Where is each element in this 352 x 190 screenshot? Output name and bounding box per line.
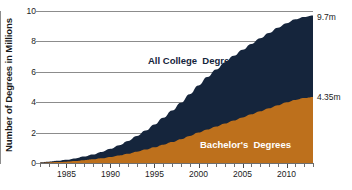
- x-axis-tick-mark-minor: [102, 164, 103, 167]
- x-axis-tick-label: 2000: [189, 169, 208, 179]
- endpoint-label-bachelors-degrees: 4.35m: [317, 92, 341, 102]
- y-axis-title: Number of Degrees in Millions: [0, 0, 16, 170]
- x-axis-tick-mark-minor: [225, 164, 226, 167]
- x-axis-tick-mark-minor: [49, 164, 50, 167]
- x-axis-tick-mark-minor: [295, 164, 296, 167]
- x-axis-tick-mark-minor: [190, 164, 191, 167]
- x-axis-tick-mark-minor: [172, 164, 173, 167]
- y-axis-tick-label: 2: [22, 128, 36, 138]
- x-axis-tick-mark-minor: [119, 164, 120, 167]
- x-axis-tick-mark-minor: [181, 164, 182, 167]
- x-axis-tick-mark-major: [199, 164, 200, 168]
- x-axis-tick-mark-major: [154, 164, 155, 168]
- x-axis-tick-label: 2010: [277, 169, 296, 179]
- x-axis-tick-mark-minor: [146, 164, 147, 167]
- x-axis-tick-label: 1995: [145, 169, 164, 179]
- endpoint-label-all-college-degrees: 9.7m: [317, 12, 336, 22]
- x-axis-tick-mark-minor: [216, 164, 217, 167]
- series-label-all-college-degrees: All College Degrees: [148, 55, 240, 66]
- x-axis-tick-mark-major: [243, 164, 244, 168]
- x-axis-tick-mark-major: [66, 164, 67, 168]
- y-axis-line: [0, 11, 1, 164]
- x-axis-tick-mark-minor: [163, 164, 164, 167]
- x-axis-tick-mark-minor: [234, 164, 235, 167]
- x-axis-tick-mark-major: [287, 164, 288, 168]
- y-axis-tick-label: 0: [22, 158, 36, 168]
- x-axis-tick-mark-minor: [260, 164, 261, 167]
- x-axis-tick-mark-minor: [304, 164, 305, 167]
- y-axis-tick-label: 4: [22, 97, 36, 107]
- y-axis-tick-label: 8: [22, 36, 36, 46]
- x-axis-tick-mark-minor: [75, 164, 76, 167]
- x-axis-tick-mark-minor: [93, 164, 94, 167]
- area-chart: Number of Degrees in Millions 0246810 19…: [0, 0, 352, 190]
- x-axis-tick-mark-minor: [58, 164, 59, 167]
- y-axis-tick-labels: 0246810: [18, 0, 36, 176]
- x-axis-tick-mark-minor: [84, 164, 85, 167]
- x-axis-tick-label: 2005: [233, 169, 252, 179]
- x-axis-tick-mark-minor: [251, 164, 252, 167]
- series-label-bachelors-degrees: Bachelor's Degrees: [200, 139, 291, 150]
- x-axis-tick-mark-minor: [313, 164, 314, 167]
- x-axis-tick-label: 1990: [101, 169, 120, 179]
- x-axis-tick-mark-minor: [207, 164, 208, 167]
- y-axis-tick-label: 10: [22, 6, 36, 16]
- x-axis-tick-mark-minor: [40, 164, 41, 167]
- x-axis-tick-mark-minor: [137, 164, 138, 167]
- y-axis-title-text: Number of Degrees in Millions: [3, 18, 14, 152]
- x-axis-tick-label: 1985: [57, 169, 76, 179]
- x-axis-tick-mark-minor: [269, 164, 270, 167]
- x-axis-tick-mark-minor: [128, 164, 129, 167]
- x-axis-tick-mark-major: [110, 164, 111, 168]
- y-axis-tick-label: 6: [22, 67, 36, 77]
- x-axis-tick-mark-minor: [278, 164, 279, 167]
